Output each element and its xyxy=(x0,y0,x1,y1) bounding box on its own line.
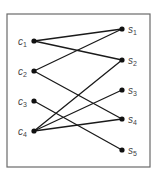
edges-group xyxy=(34,29,122,150)
label-s1: s1 xyxy=(128,24,137,37)
label-c3: c3 xyxy=(18,96,27,109)
label-c1: c1 xyxy=(18,36,27,49)
bipartite-graph-diagram: c1c2c3c4s1s2s3s4s5 xyxy=(0,0,157,172)
nodes-group xyxy=(31,26,124,152)
node-c2 xyxy=(31,68,36,73)
node-c1 xyxy=(31,38,36,43)
node-c3 xyxy=(31,98,36,103)
node-c4 xyxy=(31,128,36,133)
label-c2: c2 xyxy=(18,66,27,79)
node-s1 xyxy=(119,26,124,31)
node-s3 xyxy=(119,87,124,92)
label-s2: s2 xyxy=(128,55,137,68)
labels-group: c1c2c3c4s1s2s3s4s5 xyxy=(18,24,137,158)
label-s4: s4 xyxy=(128,114,137,127)
node-s4 xyxy=(119,116,124,121)
label-c4: c4 xyxy=(18,126,27,139)
label-s5: s5 xyxy=(128,145,137,158)
node-s2 xyxy=(119,57,124,62)
node-s5 xyxy=(119,147,124,152)
label-s3: s3 xyxy=(128,85,137,98)
